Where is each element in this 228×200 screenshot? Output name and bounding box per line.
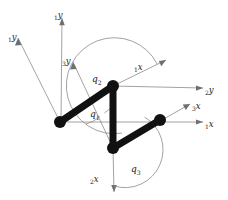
angle-q2-sub: 2 — [98, 79, 102, 86]
axis-2x-label: 2x — [90, 174, 99, 185]
axis-2y-arrowhead — [196, 86, 203, 91]
axis-3x-label: 3x — [192, 101, 201, 112]
axis-1x-horizontal-arrowhead — [196, 120, 203, 125]
joint-left — [54, 116, 66, 128]
axis-3x-arrowhead — [183, 104, 190, 110]
joint-top — [107, 80, 119, 92]
axis-3y-label: 3y — [62, 56, 71, 67]
angle-q1-label: q1 — [90, 109, 100, 121]
axes-group — [15, 18, 203, 192]
axis-1x-diagonal-arrowhead — [159, 60, 166, 66]
axis-2x-var: x — [94, 174, 99, 184]
joint-bottom — [107, 142, 119, 154]
axis-2y-var: y — [208, 85, 214, 95]
axis-1x-diagonal-var: x — [138, 62, 143, 72]
axis-1x-horizontal-label: 1x — [205, 119, 214, 130]
axis-2y-label: 2y — [205, 85, 214, 96]
angle-q3-label: q3 — [131, 164, 141, 176]
axis-1x-diagonal-label: 1x — [134, 62, 143, 73]
axis-1y-diagonal-var: y — [11, 32, 17, 42]
kinematic-diagram: 1y 1y 3y 1x 2y 3x 1x 2x — [0, 0, 228, 200]
axis-1y-vertical-line — [61, 18, 62, 122]
axis-1y-diagonal-label: 1y — [8, 32, 17, 43]
axis-1y-diagonal-line — [18, 38, 60, 122]
angle-q3-sub: 3 — [137, 169, 141, 176]
axis-1y-vertical-label: 1y — [54, 10, 63, 21]
angle-q2-label: q2 — [92, 74, 102, 86]
axis-2y-line — [113, 86, 203, 88]
link-bottom-right — [113, 120, 160, 148]
angle-q3-arc — [114, 117, 163, 188]
joint-right — [154, 114, 166, 126]
axis-3y-var: y — [65, 56, 71, 66]
axis-3x-var: x — [196, 101, 201, 111]
axis-1y-vertical-var: y — [57, 10, 63, 20]
axis-1x-horizontal-var: x — [209, 119, 214, 129]
angle-q1-sub: 1 — [96, 114, 100, 121]
